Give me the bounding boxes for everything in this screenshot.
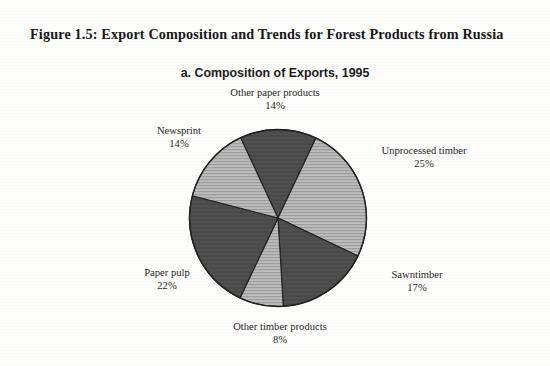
slice-label-name: Other paper products — [185, 86, 365, 99]
slice-label-value: 22% — [112, 279, 222, 292]
slice-label-value: 8% — [190, 333, 370, 346]
slice-label-value: 17% — [362, 281, 472, 294]
slice-label-value: 14% — [124, 137, 234, 150]
slice-label-newsprint: Newsprint 14% — [124, 124, 234, 150]
slice-label-name: Paper pulp — [112, 266, 222, 279]
document-page: Figure 1.5: Export Composition and Trend… — [0, 0, 550, 366]
slice-label-name: Other timber products — [190, 320, 370, 333]
slice-label-name: Sawntimber — [362, 268, 472, 281]
slice-label-name: Newsprint — [124, 124, 234, 137]
pie-chart — [0, 0, 550, 366]
slice-label-value: 14% — [185, 99, 365, 112]
slice-label-other-paper-products: Other paper products 14% — [185, 86, 365, 112]
slice-label-paper-pulp: Paper pulp 22% — [112, 266, 222, 292]
slice-label-unprocessed-timber: Unprocessed timber 25% — [358, 144, 490, 170]
slice-label-other-timber-products: Other timber products 8% — [190, 320, 370, 346]
slice-label-name: Unprocessed timber — [358, 144, 490, 157]
slice-label-sawntimber: Sawntimber 17% — [362, 268, 472, 294]
slice-label-value: 25% — [358, 157, 490, 170]
